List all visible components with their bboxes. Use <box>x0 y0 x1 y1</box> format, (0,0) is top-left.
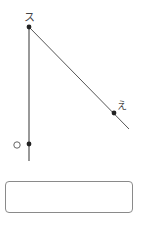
label-bottom-circle-icon <box>14 142 20 148</box>
label-right: え <box>117 100 127 111</box>
point-bottom <box>27 142 32 147</box>
geometry-figure: ス え <box>0 0 144 175</box>
label-top: ス <box>24 11 35 24</box>
point-right <box>112 111 117 116</box>
point-top <box>27 25 32 30</box>
answer-input-box[interactable] <box>5 181 133 213</box>
